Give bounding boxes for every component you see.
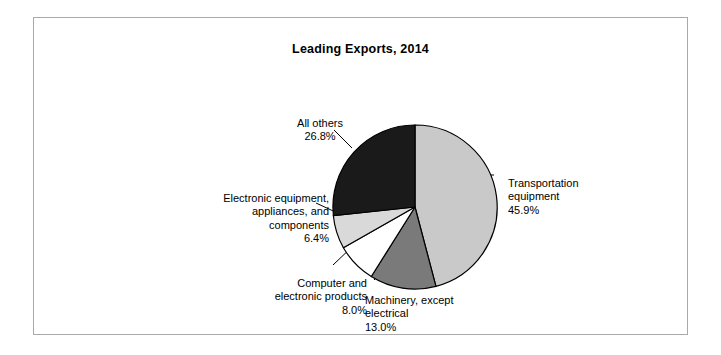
slice-label-electronic: Electronic equipment, appliances, and co… (199, 178, 329, 259)
figure-panel: Leading Exports, 2014 Transportation equ… (33, 17, 688, 335)
slice-label-transportation-name: Transportation equipment (508, 177, 579, 203)
slice-label-computer-value: 8.0% (247, 304, 367, 318)
slice-label-electronic-value: 6.4% (199, 232, 329, 246)
chart-title: Leading Exports, 2014 (34, 42, 687, 56)
slice-label-transportation: Transportation equipment 45.9% (508, 163, 579, 231)
slice-label-machinery-name: Machinery, except electrical (365, 294, 453, 320)
slice-label-computer-name: Computer and electronic products (275, 277, 367, 303)
slice-label-others-name: All others (297, 117, 343, 129)
slice-label-others-value: 26.8% (275, 130, 365, 144)
slice-label-machinery: Machinery, except electrical 13.0% (365, 280, 453, 348)
slice-label-transportation-value: 45.9% (508, 204, 579, 218)
slice-label-others: All others 26.8% (275, 103, 365, 157)
slice-label-electronic-name: Electronic equipment, appliances, and co… (223, 192, 329, 231)
slice-label-machinery-value: 13.0% (365, 321, 453, 335)
slice-label-computer: Computer and electronic products 8.0% (247, 263, 367, 331)
